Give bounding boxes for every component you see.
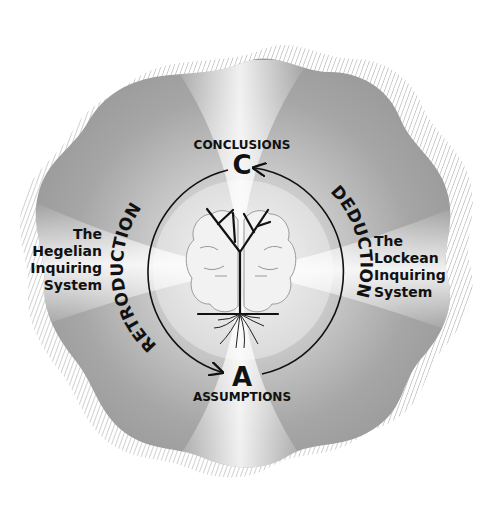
lockean-line-4: System bbox=[374, 284, 474, 301]
hegelian-system-label: The Hegelian Inquiring System bbox=[20, 226, 102, 294]
lockean-line-2: Lockean bbox=[374, 250, 474, 267]
lockean-line-3: Inquiring bbox=[374, 267, 474, 284]
hegelian-line-3: Inquiring bbox=[20, 260, 102, 277]
assumptions-label: ASSUMPTIONS bbox=[162, 390, 322, 404]
conclusions-letter: C bbox=[222, 150, 262, 180]
hegelian-line-2: Hegelian bbox=[20, 243, 102, 260]
assumptions-letter: A bbox=[222, 362, 262, 392]
hegelian-line-1: The bbox=[20, 226, 102, 243]
hegelian-line-4: System bbox=[20, 277, 102, 294]
lockean-line-1: The bbox=[374, 233, 474, 250]
lockean-system-label: The Lockean Inquiring System bbox=[374, 233, 474, 301]
